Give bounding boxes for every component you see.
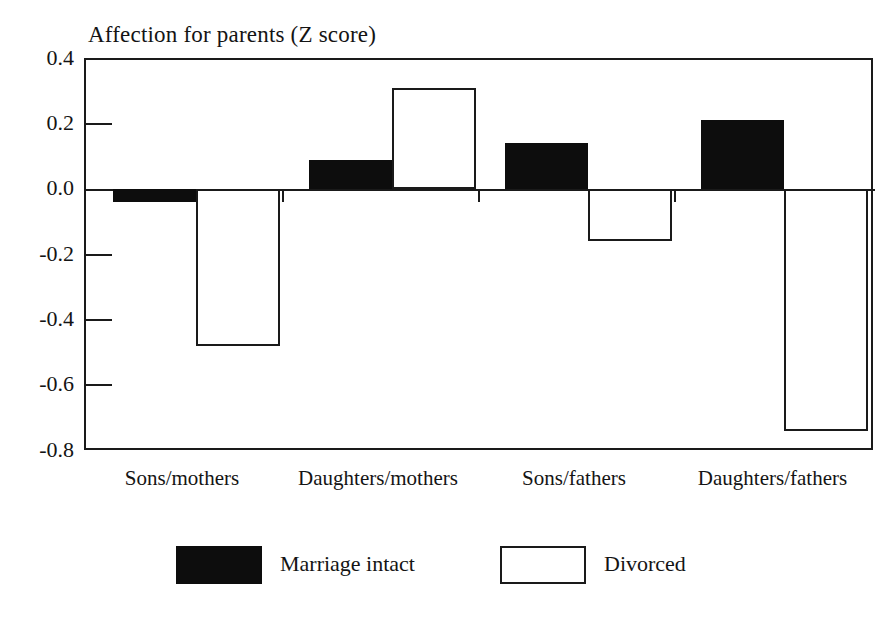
plot-area <box>84 58 873 450</box>
y-tick-mark--0.6 <box>86 384 112 386</box>
bar-sons-mothers-divorced[interactable] <box>196 189 280 346</box>
y-axis-tick-label-6: -0.8 <box>8 439 74 461</box>
x-tick-group-2 <box>478 189 480 202</box>
x-axis-category-label-daughters-fathers: Daughters/fathers <box>672 466 873 490</box>
y-axis-tick-label-0: 0.4 <box>8 47 74 69</box>
y-axis-tick-label-5: -0.6 <box>8 373 74 395</box>
bar-chart-figure: Affection for parents (Z score) 0.4 0.2 … <box>0 0 896 629</box>
x-tick-group-3 <box>674 189 676 202</box>
filled-square-icon <box>176 546 262 584</box>
chart-title: Affection for parents (Z score) <box>88 22 376 48</box>
x-axis-category-label-sons-fathers: Sons/fathers <box>476 466 672 490</box>
y-axis-tick-label-4: -0.4 <box>8 308 74 330</box>
bar-daughters-fathers-marriage-intact[interactable] <box>701 120 784 189</box>
chart-legend: Marriage intact Divorced <box>0 540 896 600</box>
x-axis-category-label-daughters-mothers: Daughters/mothers <box>280 466 476 490</box>
x-tick-group-1 <box>282 189 284 202</box>
y-tick-mark--0.2 <box>86 254 112 256</box>
y-tick-mark--0.4 <box>86 319 112 321</box>
y-tick-mark-0.2 <box>86 123 112 125</box>
bar-sons-mothers-marriage-intact[interactable] <box>113 189 196 202</box>
bar-daughters-fathers-divorced[interactable] <box>784 189 868 431</box>
hollow-square-icon <box>500 546 586 584</box>
bar-sons-fathers-marriage-intact[interactable] <box>505 143 588 189</box>
bar-daughters-mothers-divorced[interactable] <box>392 88 476 189</box>
bar-daughters-mothers-marriage-intact[interactable] <box>309 160 392 189</box>
y-axis-tick-label-3: -0.2 <box>8 243 74 265</box>
y-axis-tick-label-1: 0.2 <box>8 112 74 134</box>
legend-label-divorced: Divorced <box>604 548 686 580</box>
y-axis-tick-label-2: 0.0 <box>8 177 74 199</box>
x-axis-category-label-sons-mothers: Sons/mothers <box>84 466 280 490</box>
bar-sons-fathers-divorced[interactable] <box>588 189 672 241</box>
legend-label-marriage-intact: Marriage intact <box>280 548 415 580</box>
